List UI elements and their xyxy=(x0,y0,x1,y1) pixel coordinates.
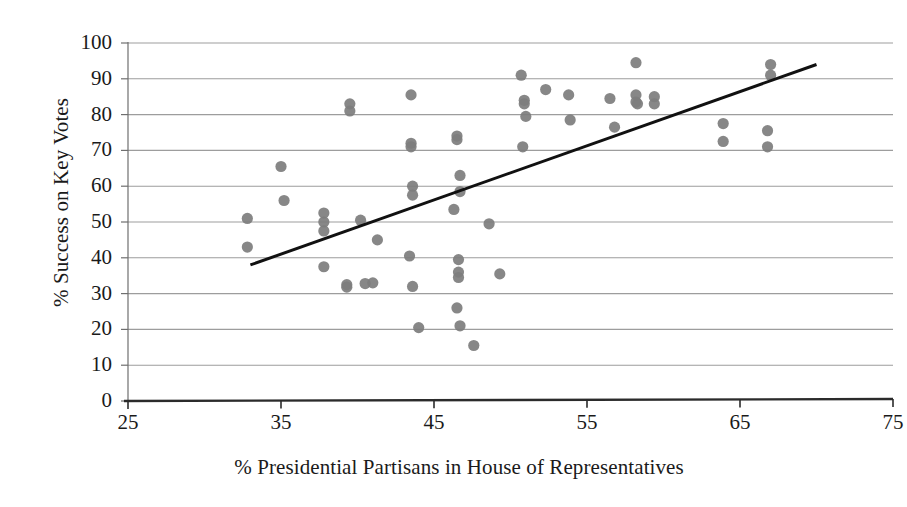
data-point xyxy=(519,98,530,109)
data-point xyxy=(451,302,462,313)
data-point xyxy=(565,114,576,125)
data-point xyxy=(451,134,462,145)
data-points xyxy=(242,57,776,351)
data-point xyxy=(517,141,528,152)
data-point xyxy=(604,93,615,104)
plot-area xyxy=(0,0,907,507)
data-point xyxy=(762,125,773,136)
data-point xyxy=(344,105,355,116)
data-point xyxy=(563,89,574,100)
data-point xyxy=(448,204,459,215)
data-point xyxy=(341,282,352,293)
data-point xyxy=(765,59,776,70)
data-point xyxy=(454,170,465,181)
data-point xyxy=(278,195,289,206)
data-point xyxy=(367,277,378,288)
data-point xyxy=(454,320,465,331)
x-axis-line xyxy=(124,399,893,401)
data-point xyxy=(516,70,527,81)
data-point xyxy=(407,190,418,201)
data-point xyxy=(453,272,464,283)
data-point xyxy=(405,89,416,100)
data-point xyxy=(540,84,551,95)
data-point xyxy=(468,340,479,351)
data-point xyxy=(242,213,253,224)
data-point xyxy=(649,98,660,109)
data-point xyxy=(453,254,464,265)
gridlines xyxy=(128,43,893,365)
data-point xyxy=(718,118,729,129)
axes xyxy=(121,42,893,409)
data-point xyxy=(275,161,286,172)
data-point xyxy=(520,111,531,122)
trendline xyxy=(250,64,816,264)
data-point xyxy=(407,281,418,292)
data-point xyxy=(405,141,416,152)
data-point xyxy=(630,57,641,68)
data-point xyxy=(483,218,494,229)
data-point xyxy=(609,122,620,133)
data-point xyxy=(632,98,643,109)
data-point xyxy=(718,136,729,147)
data-point xyxy=(242,241,253,252)
data-point xyxy=(762,141,773,152)
data-point xyxy=(318,261,329,272)
data-point xyxy=(413,322,424,333)
data-point xyxy=(372,234,383,245)
data-point xyxy=(494,268,505,279)
data-point xyxy=(404,250,415,261)
scatter-chart: % Success on Key Votes % Presidential Pa… xyxy=(0,0,907,507)
data-point xyxy=(318,225,329,236)
